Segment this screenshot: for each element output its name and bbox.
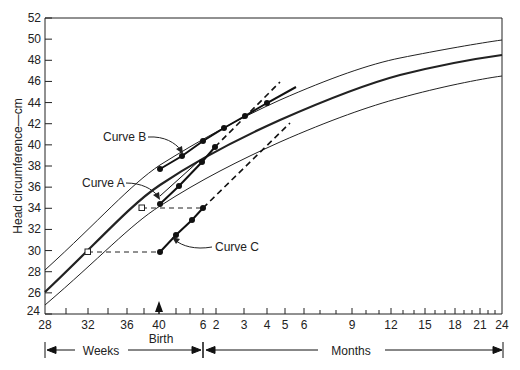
y-tick-label: 44	[28, 96, 42, 110]
y-axis-title: Head circumference—cm	[11, 98, 25, 233]
x-tick-label: 15	[418, 318, 432, 332]
corrected-age-markers	[85, 205, 203, 255]
reference-curves	[45, 40, 502, 305]
curve-b	[157, 87, 296, 172]
x-tick-label: 6	[200, 318, 207, 332]
y-tick-label: 50	[28, 32, 42, 46]
y-tick-label: 46	[28, 74, 42, 88]
x-tick-label: 3	[241, 318, 248, 332]
y-tick-label: 24	[27, 304, 41, 318]
x-tick-label: 5	[282, 318, 289, 332]
y-tick-label: 34	[28, 201, 42, 215]
curve-c-label: Curve C	[215, 240, 259, 254]
x-tick-label: 21	[473, 318, 487, 332]
y-tick-label: 30	[28, 244, 42, 258]
months-label: Months	[331, 344, 370, 358]
curve-b-label: Curve B	[103, 130, 146, 144]
curve-c-callout-arrow	[175, 240, 212, 248]
open-square-marker	[85, 249, 91, 255]
y-axis-labels: 242628303234363840424446485052	[27, 11, 42, 318]
head-circumference-chart: 242628303234363840424446485052 2832364	[0, 0, 520, 370]
birth-label: Birth	[149, 332, 174, 346]
curve-a-label: Curve A	[82, 176, 125, 190]
y-tick-label: 36	[28, 180, 42, 194]
reference-mean-curve	[45, 55, 502, 292]
x-tick-label: 28	[38, 318, 52, 332]
x-axis	[66, 308, 495, 314]
reference-lower-curve	[45, 76, 502, 305]
x-axis-labels: 2832364062345691215182124	[38, 318, 509, 332]
y-tick-label: 52	[28, 11, 42, 25]
x-tick-label: 32	[81, 318, 95, 332]
x-tick-label: 9	[349, 318, 356, 332]
y-tick-label: 40	[28, 138, 42, 152]
birth-arrow-icon	[155, 301, 163, 314]
weeks-label: Weeks	[83, 344, 119, 358]
curve-b-callout-arrow	[148, 137, 181, 150]
x-tick-label: 2	[213, 318, 220, 332]
y-tick-label: 38	[28, 159, 42, 173]
x-tick-label: 4	[264, 318, 271, 332]
arrowhead-icon	[153, 192, 160, 200]
y-tick-label: 32	[28, 222, 42, 236]
x-tick-label: 12	[384, 318, 398, 332]
x-tick-label: 18	[448, 318, 462, 332]
weeks-range-bar	[45, 342, 203, 358]
open-square-marker	[139, 205, 145, 211]
x-tick-label: 6	[301, 318, 308, 332]
plot-frame	[45, 18, 502, 314]
x-tick-label: 24	[495, 318, 509, 332]
x-tick-label: 40	[152, 318, 166, 332]
y-tick-label: 42	[28, 117, 42, 131]
y-tick-label: 26	[28, 286, 42, 300]
reference-upper-curve	[45, 40, 502, 270]
y-tick-label: 28	[28, 265, 42, 279]
x-tick-label: 36	[120, 318, 134, 332]
y-tick-label: 48	[28, 53, 42, 67]
